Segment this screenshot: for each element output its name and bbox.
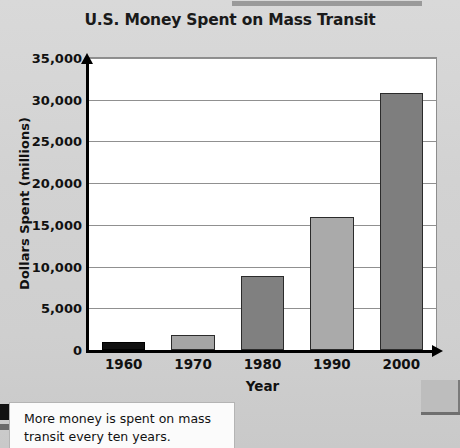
y-tick-label: 30,000 (0, 92, 82, 107)
caption-text: More money is spent on mass transit ever… (24, 410, 224, 446)
y-tick-label: 20,000 (0, 176, 82, 191)
x-tick-label: 1960 (89, 356, 158, 372)
y-tick-label: 25,000 (0, 134, 82, 149)
bar-1980 (241, 276, 284, 350)
y-tick-label: 10,000 (0, 259, 82, 274)
page-edge-shadow-right (421, 412, 460, 415)
page-edge-artifact-top (232, 1, 422, 6)
y-axis-title: Dollars Spent (millions) (17, 104, 32, 304)
chart-plot-area (89, 58, 436, 350)
y-axis-arrow-icon (81, 53, 93, 64)
page-edge-artifact-right (421, 380, 460, 414)
bar-2000 (380, 93, 423, 350)
y-tick-label: 0 (0, 343, 82, 358)
x-axis-title: Year (88, 378, 437, 394)
y-tick-label: 5,000 (0, 301, 82, 316)
bar-1970 (171, 335, 214, 350)
y-tick-label: 35,000 (0, 51, 82, 66)
y-axis-tick-labels: 05,00010,00015,00020,00025,00030,00035,0… (0, 0, 82, 448)
caption-box: More money is spent on mass transit ever… (9, 402, 235, 448)
x-axis-line (86, 350, 435, 353)
y-axis-line (86, 62, 89, 352)
x-tick-label: 1980 (228, 356, 297, 372)
x-tick-label: 2000 (367, 356, 436, 372)
bar-1990 (310, 217, 353, 350)
bar-1960 (102, 342, 145, 350)
x-tick-label: 1970 (158, 356, 227, 372)
gridline (89, 58, 436, 59)
y-tick-label: 15,000 (0, 217, 82, 232)
x-tick-label: 1990 (297, 356, 366, 372)
